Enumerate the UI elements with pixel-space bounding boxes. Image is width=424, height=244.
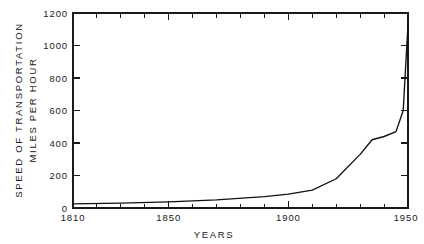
- x-axis-ticks-top: [73, 13, 408, 20]
- x-tick-label-1850: 1850: [156, 212, 181, 223]
- y-tick-labels: 0 200 400 600 800 1000 1200: [43, 8, 68, 214]
- y-tick-label-800: 800: [49, 73, 68, 84]
- y-tick-label-1200: 1200: [43, 8, 68, 19]
- y-tick-label-600: 600: [49, 105, 68, 116]
- y-tick-label-1000: 1000: [43, 40, 68, 51]
- y-axis-title-line1: SPEED OF TRANSPORTATION: [13, 22, 24, 198]
- chart-figure: 0 200 400 600 800 1000 1200 1810 1850 19…: [0, 0, 424, 244]
- line-chart: 0 200 400 600 800 1000 1200 1810 1850 19…: [0, 0, 424, 244]
- y-tick-label-200: 200: [49, 170, 68, 181]
- y-axis-ticks-left: [73, 13, 80, 208]
- x-axis-ticks-bottom: [73, 201, 408, 208]
- y-axis-title-line2: MILES PER HOUR: [27, 57, 38, 162]
- x-tick-label-1950: 1950: [394, 212, 419, 223]
- plot-frame: [73, 13, 408, 208]
- x-tick-labels: 1810 1850 1900 1950: [61, 212, 419, 223]
- y-tick-label-400: 400: [49, 138, 68, 149]
- x-tick-label-1900: 1900: [276, 212, 301, 223]
- data-series-speed-line: [73, 24, 408, 204]
- x-tick-label-1810: 1810: [61, 212, 86, 223]
- x-axis-title: YEARS: [194, 229, 235, 240]
